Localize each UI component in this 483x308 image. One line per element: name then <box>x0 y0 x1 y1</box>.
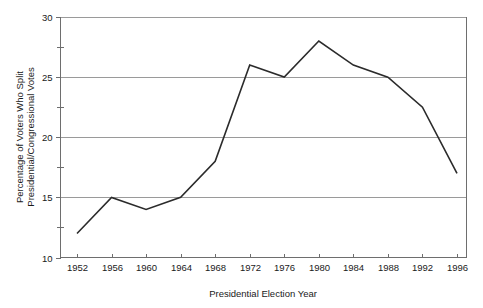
y-axis-title-line-1: Percentage of Voters Who Split <box>14 71 25 203</box>
y-axis-title-line-2: Presidential/Congressional Votes <box>25 67 36 207</box>
line-chart: 1015202530 19521956196019641968197219761… <box>0 0 483 308</box>
x-tick-label-1952: 1952 <box>67 262 88 273</box>
x-tick-label-1996: 1996 <box>447 262 468 273</box>
x-tick-label-1980: 1980 <box>309 262 330 273</box>
y-tick-label-25: 25 <box>42 72 53 83</box>
chart-container: 1015202530 19521956196019641968197219761… <box>0 0 483 308</box>
x-tick-label-1964: 1964 <box>171 262 192 273</box>
x-tick-label-1976: 1976 <box>274 262 295 273</box>
y-tick-label-20: 20 <box>42 132 53 143</box>
x-tick-label-1984: 1984 <box>343 262 364 273</box>
x-tick-label-1988: 1988 <box>378 262 399 273</box>
y-tick-label-10: 10 <box>42 253 53 264</box>
x-tick-label-1956: 1956 <box>102 262 123 273</box>
x-tick-label-1972: 1972 <box>240 262 261 273</box>
y-tick-label-30: 30 <box>42 12 53 23</box>
y-tick-label-15: 15 <box>42 192 53 203</box>
x-tick-label-1992: 1992 <box>412 262 433 273</box>
x-tick-label-1968: 1968 <box>205 262 226 273</box>
x-tick-label-1960: 1960 <box>136 262 157 273</box>
x-axis-title: Presidential Election Year <box>209 288 317 299</box>
